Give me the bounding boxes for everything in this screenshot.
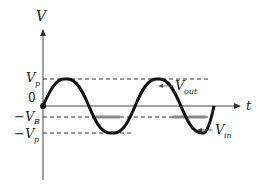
svg-text:out: out — [184, 87, 198, 96]
svg-text:−: − — [14, 109, 25, 124]
vout-leader-arrow-icon — [158, 84, 163, 88]
svg-text:B: B — [33, 117, 40, 126]
y-axis-label: V — [36, 8, 48, 24]
neg-vp-label: − V p — [14, 126, 39, 144]
origin-dot — [40, 103, 46, 109]
waveform-diagram: V t 0 V p − V B − V p V out V in — [0, 0, 266, 188]
svg-text:p: p — [34, 135, 39, 144]
origin-label: 0 — [28, 91, 36, 105]
vp-label: V p — [26, 70, 40, 88]
svg-text:p: p — [35, 79, 40, 88]
svg-text:in: in — [224, 131, 232, 140]
vout-label: V out — [175, 78, 198, 96]
vin-label: V in — [215, 122, 232, 140]
x-axis-label: t — [246, 98, 252, 113]
neg-vb-label: − V B — [14, 109, 40, 126]
svg-text:−: − — [14, 126, 25, 141]
